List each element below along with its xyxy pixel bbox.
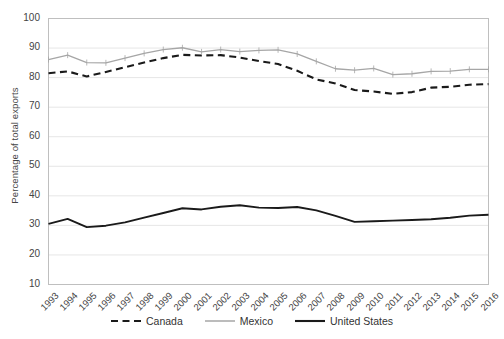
plot-area <box>0 0 504 339</box>
legend-label: Mexico <box>240 316 273 327</box>
light-solid-line-key <box>205 316 235 326</box>
legend-item-united-states[interactable]: United States <box>295 316 393 327</box>
legend-item-mexico[interactable]: Mexico <box>205 316 273 327</box>
data-series-layer <box>49 45 489 227</box>
chart-legend: CanadaMexicoUnited States <box>0 316 504 327</box>
legend-label: United States <box>330 316 393 327</box>
line-chart: Percentage of total exports 100908070605… <box>0 0 504 339</box>
series-line-united-states <box>49 205 489 227</box>
dashed-line-key <box>111 316 141 326</box>
plot-border <box>49 19 489 285</box>
legend-item-canada[interactable]: Canada <box>111 316 183 327</box>
bold-solid-line-key <box>295 316 325 326</box>
legend-label: Canada <box>146 316 183 327</box>
series-line-mexico <box>49 48 489 75</box>
